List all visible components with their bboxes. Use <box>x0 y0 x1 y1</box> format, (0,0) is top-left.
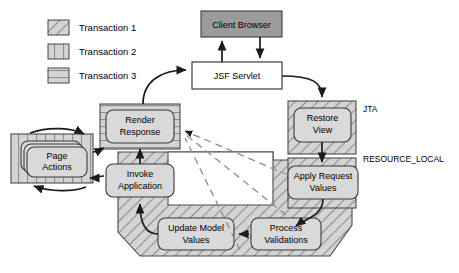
update-model-values-label-line2: Values <box>183 235 210 245</box>
process-validations-label-line2: Validations <box>264 235 308 245</box>
arrow-render-to-servlet <box>143 70 186 104</box>
render-response-label-line1: Render <box>125 115 155 125</box>
arrow-page-actions-loop-top <box>30 129 84 134</box>
transaction-1-cutout <box>168 152 273 205</box>
jsf-servlet-label: JSF Servlet <box>214 71 261 81</box>
legend-item-transaction-1: Transaction 1 <box>48 20 136 35</box>
render-response-label-line2: Response <box>120 127 161 137</box>
legend-item-transaction-2: Transaction 2 <box>48 44 136 59</box>
apply-request-values-label-line1: Apply Request <box>294 171 353 181</box>
restore-view-label-line2: View <box>313 125 333 135</box>
diagonal-hatch-swatch <box>48 20 69 35</box>
arrow-servlet-to-restore-view <box>282 76 322 97</box>
restore-view-label-line1: Restore <box>307 113 339 123</box>
apply-request-values-label-line2: Values <box>310 183 337 193</box>
jta-label: JTA <box>363 104 378 114</box>
vertical-hatch-swatch <box>48 44 69 59</box>
update-model-values-label-line1: Update Model <box>168 223 224 233</box>
legend: Transaction 1 Transaction 2 Transaction … <box>48 20 136 83</box>
jsf-lifecycle-diagram: Transaction 1 Transaction 2 Transaction … <box>0 0 459 273</box>
arrow-page-actions-loop-bottom <box>34 186 86 191</box>
page-actions-label-line1: Page <box>46 151 67 161</box>
arrow-page-actions-to-render <box>93 148 104 152</box>
legend-label: Transaction 3 <box>79 70 136 81</box>
horizontal-hatch-swatch <box>48 68 69 83</box>
diagram-canvas: Transaction 1 Transaction 2 Transaction … <box>0 0 459 273</box>
legend-label: Transaction 2 <box>79 46 136 57</box>
invoke-application-label-line2: Application <box>118 181 162 191</box>
resource-local-label: RESOURCE_LOCAL <box>363 154 444 164</box>
legend-item-transaction-3: Transaction 3 <box>48 68 136 83</box>
client-browser-label: Client Browser <box>212 20 271 30</box>
invoke-application-label-line1: Invoke <box>127 169 154 179</box>
page-actions-label-line2: Actions <box>42 162 72 172</box>
legend-label: Transaction 1 <box>79 22 136 33</box>
